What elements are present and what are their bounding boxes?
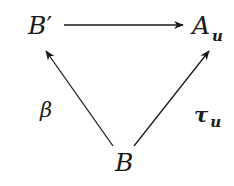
label-beta: β [40,100,52,121]
commutative-diagram: B′ Au B β τu [0,0,234,186]
node-a-u: Au [192,13,223,38]
label-tau-subscript: u [210,113,221,131]
node-b-main: B [115,148,133,177]
node-a-main: A [192,11,210,40]
node-b: B [115,150,133,175]
node-b-prime-main: B [28,11,46,40]
arrow-b-to-au [134,51,209,146]
label-tau-main: τ [194,102,208,127]
node-b-prime-mark: ′ [46,11,52,40]
arrow-b-to-bprime [46,51,113,146]
node-b-prime: B′ [28,13,52,38]
label-tau-u: τu [194,104,221,126]
node-a-subscript: u [212,27,223,45]
label-beta-text: β [40,98,52,122]
